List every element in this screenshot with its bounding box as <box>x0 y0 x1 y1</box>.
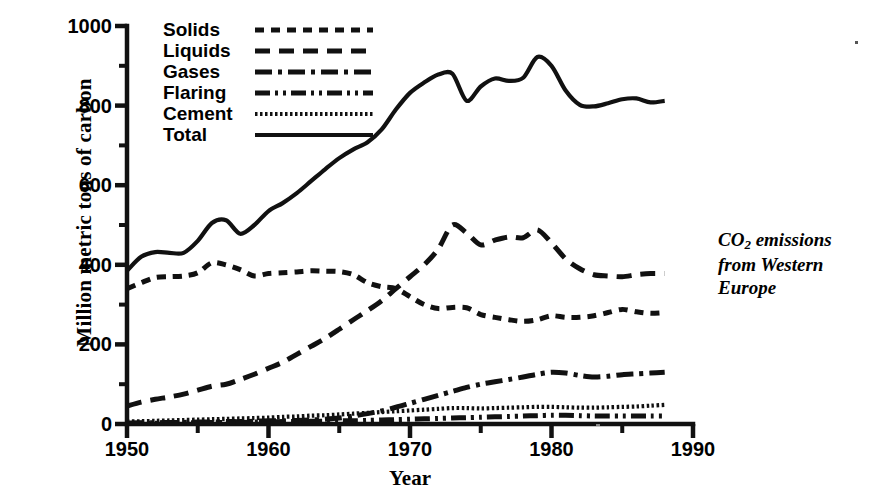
legend-label-liquids: Liquids <box>163 41 233 60</box>
chart-annotation: CO2 emissions from Western Europe <box>718 228 868 299</box>
y-tick-label: 800 <box>40 94 112 117</box>
legend-swatch-liquids <box>255 42 373 60</box>
legend-label-flaring: Flaring <box>163 83 233 102</box>
annotation-line-2: from Western <box>718 254 823 275</box>
legend-label-cement: Cement <box>163 104 233 123</box>
y-tick-label: 200 <box>40 333 112 356</box>
series-line-gases <box>127 372 665 423</box>
y-tick-label: 0 <box>40 413 112 436</box>
legend-swatch-flaring <box>255 84 373 102</box>
x-tick-label: 1960 <box>246 438 291 461</box>
y-tick-label: 600 <box>40 174 112 197</box>
scan-speck <box>855 41 858 44</box>
y-tick-label: 1000 <box>40 15 112 38</box>
legend-swatch-gases <box>255 63 373 81</box>
x-tick-label: 1980 <box>529 438 574 461</box>
x-tick-label: 1970 <box>388 438 433 461</box>
legend-swatch-total <box>255 126 373 144</box>
y-axis-title: Million metric tons of carbon <box>72 3 97 423</box>
annotation-line-3: Europe <box>718 277 776 298</box>
x-tick-label: 1950 <box>105 438 150 461</box>
legend-label-gases: Gases <box>163 62 233 81</box>
x-tick-label: 1990 <box>671 438 716 461</box>
legend-swatch-cement <box>255 105 373 123</box>
scan-speck <box>596 424 600 426</box>
legend-label-total: Total <box>163 125 233 144</box>
annotation-line-1: CO2 emissions <box>718 229 832 250</box>
series-line-liquids <box>127 225 665 407</box>
x-axis-title: Year <box>127 466 693 491</box>
y-tick-label: 400 <box>40 253 112 276</box>
legend-label-solids: Solids <box>163 20 233 39</box>
chart-legend: SolidsLiquidsGasesFlaringCementTotal <box>163 19 373 145</box>
legend-swatch-solids <box>255 21 373 39</box>
chart-figure: Million metric tons of carbon Year 02004… <box>0 0 874 502</box>
